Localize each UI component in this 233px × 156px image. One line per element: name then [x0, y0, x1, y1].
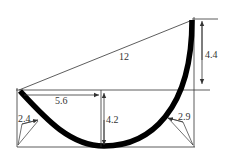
label-right-height: 4.4 [205, 49, 218, 60]
label-left-offset: 2.4 [18, 113, 31, 124]
chord-line [19, 21, 190, 90]
thick-curve [20, 20, 192, 146]
dimensioned-curve-diagram: 12 4.4 5.6 4.2 2.4 2.9 [0, 0, 233, 156]
label-sag-depth: 4.2 [106, 114, 119, 125]
label-half-span: 5.6 [55, 95, 68, 106]
right-offset-leaders [168, 118, 193, 145]
label-chord: 12 [119, 51, 129, 62]
label-right-offset: 2.9 [178, 111, 191, 122]
